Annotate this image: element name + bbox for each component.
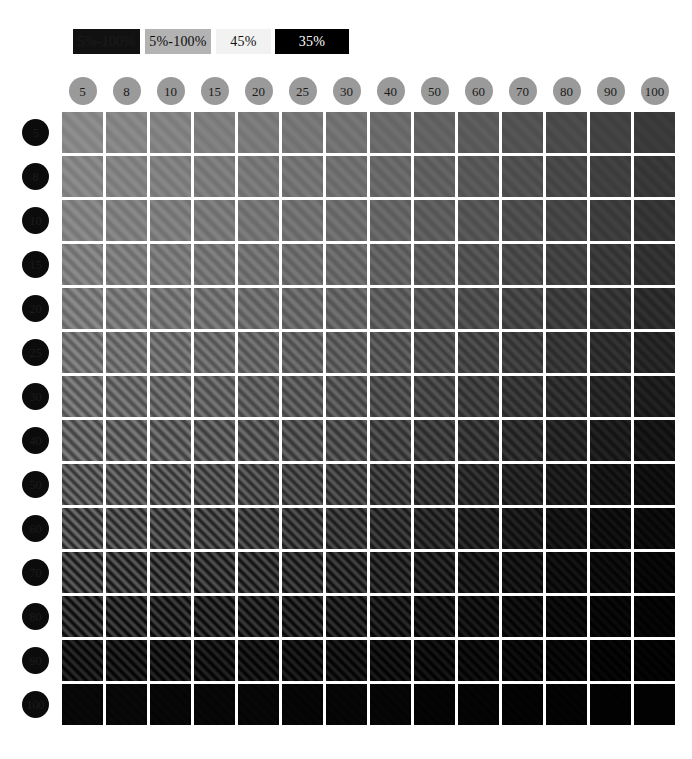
- grating-pattern: [106, 684, 147, 725]
- grating-pattern: [150, 288, 191, 329]
- grating-pattern: [326, 332, 367, 373]
- grating-cell: [590, 596, 631, 637]
- grating-pattern: [502, 244, 543, 285]
- grating-pattern: [502, 640, 543, 681]
- grating-pattern: [502, 200, 543, 241]
- grating-cell: [414, 464, 455, 505]
- legend-swatch-label: 45%: [230, 34, 256, 50]
- grating-pattern: [634, 596, 675, 637]
- grating-cell: [370, 508, 411, 549]
- grating-cell: [238, 156, 279, 197]
- grating-cell: [282, 156, 323, 197]
- grating-cell: [62, 112, 103, 153]
- grating-cell: [370, 464, 411, 505]
- column-header-label: 50: [428, 85, 441, 98]
- grating-cell: [106, 596, 147, 637]
- grating-cell: [238, 596, 279, 637]
- grating-pattern: [282, 684, 323, 725]
- grating-cell: [590, 552, 631, 593]
- grating-cell: [106, 288, 147, 329]
- grating-pattern: [106, 420, 147, 461]
- grating-pattern: [282, 244, 323, 285]
- grating-cell: [634, 200, 675, 241]
- grating-cell: [502, 332, 543, 373]
- grating-pattern: [150, 332, 191, 373]
- grating-pattern: [326, 640, 367, 681]
- row-header-90: 90: [22, 647, 49, 674]
- column-header-label: 5: [79, 85, 86, 98]
- grating-pattern: [62, 420, 103, 461]
- grating-pattern: [634, 684, 675, 725]
- grating-pattern: [150, 244, 191, 285]
- grating-pattern: [546, 200, 587, 241]
- grating-pattern: [634, 640, 675, 681]
- grating-pattern: [370, 244, 411, 285]
- grating-cell: [546, 596, 587, 637]
- grating-cell: [238, 684, 279, 725]
- grating-pattern: [414, 332, 455, 373]
- grating-cell: [590, 464, 631, 505]
- grating-pattern: [62, 376, 103, 417]
- grating-cell: [502, 156, 543, 197]
- column-header-8: 8: [113, 77, 141, 105]
- grating-pattern: [106, 288, 147, 329]
- grating-cell: [414, 508, 455, 549]
- grating-cell: [590, 288, 631, 329]
- column-header-label: 10: [164, 85, 177, 98]
- grating-pattern: [282, 508, 323, 549]
- column-header-100: 100: [641, 77, 669, 105]
- grating-pattern: [238, 156, 279, 197]
- grating-pattern: [326, 684, 367, 725]
- grating-cell: [326, 112, 367, 153]
- grating-cell: [634, 552, 675, 593]
- grating-pattern: [150, 596, 191, 637]
- grating-cell: [150, 640, 191, 681]
- column-header-50: 50: [421, 77, 449, 105]
- grating-pattern: [546, 288, 587, 329]
- grating-cell: [326, 596, 367, 637]
- row-header-100: 100: [22, 691, 49, 718]
- grating-cell: [194, 640, 235, 681]
- grating-cell: [634, 244, 675, 285]
- grating-pattern: [414, 640, 455, 681]
- grating-cell: [282, 596, 323, 637]
- grating-cell: [106, 332, 147, 373]
- grating-cell: [590, 332, 631, 373]
- grating-cell: [106, 552, 147, 593]
- grating-pattern: [546, 376, 587, 417]
- grating-pattern: [414, 376, 455, 417]
- grating-cell: [106, 420, 147, 461]
- grating-cell: [546, 552, 587, 593]
- grating-pattern: [238, 640, 279, 681]
- grating-pattern: [282, 596, 323, 637]
- grating-pattern: [282, 376, 323, 417]
- grating-pattern: [634, 420, 675, 461]
- grating-pattern: [414, 420, 455, 461]
- grating-pattern: [150, 376, 191, 417]
- grating-cell: [458, 464, 499, 505]
- grating-pattern: [194, 112, 235, 153]
- grating-pattern: [414, 112, 455, 153]
- grating-pattern: [634, 244, 675, 285]
- grating-cell: [458, 288, 499, 329]
- grating-pattern: [502, 596, 543, 637]
- grating-pattern: [414, 464, 455, 505]
- grating-cell: [194, 200, 235, 241]
- grating-pattern: [458, 156, 499, 197]
- grating-pattern: [546, 112, 587, 153]
- grating-cell: [370, 376, 411, 417]
- grating-pattern: [458, 684, 499, 725]
- grating-pattern: [326, 420, 367, 461]
- grating-pattern: [194, 200, 235, 241]
- legend-swatch-0: 5%-100%: [73, 29, 140, 54]
- grating-pattern: [282, 200, 323, 241]
- grating-pattern: [546, 640, 587, 681]
- row-header-60: 60: [22, 515, 49, 542]
- grating-cell: [62, 288, 103, 329]
- grating-pattern: [238, 596, 279, 637]
- grating-cell: [502, 112, 543, 153]
- row-header-50: 50: [22, 471, 49, 498]
- grating-pattern: [590, 288, 631, 329]
- grating-pattern: [106, 112, 147, 153]
- grating-cell: [62, 376, 103, 417]
